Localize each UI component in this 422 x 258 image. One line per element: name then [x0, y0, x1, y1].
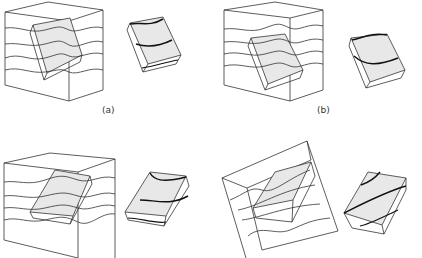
panel-a-block — [5, 2, 103, 101]
panel-d-block — [222, 141, 338, 258]
panel-c-sample — [125, 172, 189, 226]
diagram-canvas — [0, 0, 422, 258]
panel-b-block — [224, 2, 323, 101]
panel-a-sample — [127, 17, 181, 72]
panel-d-sample — [344, 172, 406, 234]
panel-c-block — [4, 153, 115, 258]
panel-b-label: (b) — [317, 105, 330, 115]
panel-a-label: (a) — [102, 105, 115, 115]
panel-b-sample — [349, 34, 405, 88]
